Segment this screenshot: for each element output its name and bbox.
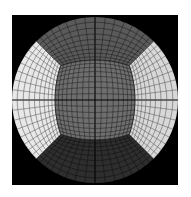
- fisheye-figure: [0, 0, 191, 197]
- face-front: [55, 60, 135, 140]
- fisheye-cubemap-diagram: [0, 0, 191, 197]
